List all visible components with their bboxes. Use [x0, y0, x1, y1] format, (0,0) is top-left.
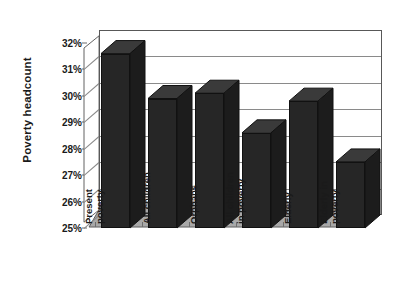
x-axis-label-line: Elderly: [282, 192, 293, 224]
x-axis-tick-label: Elderly: [282, 192, 293, 224]
x-axis-tick-mark: [142, 222, 143, 227]
bar: [289, 30, 318, 228]
bar: [336, 30, 365, 228]
x-axis-label-line: poverty: [94, 190, 105, 224]
x-axis-tick-label: Presentpoverty: [83, 189, 105, 224]
bar: [242, 30, 271, 228]
y-axis-tick-label: 32%: [44, 38, 82, 49]
bar-front-face: [336, 162, 365, 228]
y-axis-tick-label: 28%: [44, 143, 82, 154]
x-axis-tick-mark: [283, 222, 284, 227]
y-axis-tick-label: 26%: [44, 196, 82, 207]
x-axis-label-line: in poverty: [235, 179, 246, 224]
bar-front-face: [148, 99, 177, 229]
x-axis-tick-mark: [330, 222, 331, 227]
y-axis-title: Poverty headcount: [21, 35, 33, 185]
x-axis-tick-mark: [189, 222, 190, 227]
y-axis-tick-labels: 25%26%27%28%29%30%31%32%: [44, 30, 82, 226]
x-axis-label-line: All children: [224, 172, 235, 224]
poverty-headcount-bar-chart: Poverty headcount 25%26%27%28%29%30%31%3…: [0, 0, 393, 287]
x-axis-label-line: Present: [83, 189, 94, 224]
bar: [148, 30, 177, 228]
x-axis-tick-label: Elderly inpoverty: [318, 181, 340, 224]
x-axis-label-line: All children: [141, 172, 152, 224]
bar: [195, 30, 224, 228]
x-axis-label-line: poverty: [329, 190, 340, 224]
x-axis-label-line: Elderly in: [318, 181, 329, 224]
x-axis-tick-label: Orphans: [188, 185, 199, 224]
y-axis-tick-label: 31%: [44, 64, 82, 75]
bar-front-face: [195, 93, 224, 228]
x-axis-tick-label: All children: [141, 172, 152, 224]
x-axis-tick-label: All childrenin poverty: [224, 172, 246, 224]
bar-front-face: [289, 101, 318, 228]
y-axis-tick-label: 30%: [44, 90, 82, 101]
y-axis-tick-label: 29%: [44, 117, 82, 128]
y-axis-tick-label: 25%: [44, 223, 82, 234]
x-axis-tick-labels: PresentpovertyAll childrenOrphansAll chi…: [84, 222, 384, 287]
y-axis-tick-label: 27%: [44, 170, 82, 181]
x-axis-label-line: Orphans: [188, 185, 199, 224]
x-axis-tick-mark: [236, 222, 237, 227]
x-axis-tick-mark: [95, 222, 96, 227]
bar-front-face: [242, 133, 271, 228]
